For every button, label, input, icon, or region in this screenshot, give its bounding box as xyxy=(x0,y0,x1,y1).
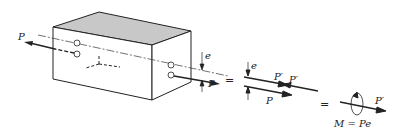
prism xyxy=(53,12,191,100)
eccentricity-dim-1 xyxy=(200,52,204,92)
hole-centroid-left xyxy=(74,40,80,46)
label-eccentricity-1: e xyxy=(205,50,211,61)
label-p-prime-2: P′ xyxy=(288,74,299,85)
label-p-prime-final: P′ xyxy=(374,95,385,106)
label-p-lower: P xyxy=(265,95,273,106)
eccentric-load-diagram: P e P = e P′ P′ P = P′ M = Pe xyxy=(0,0,399,135)
label-p-prime-1: P′ xyxy=(273,71,284,82)
label-load-left: P xyxy=(17,31,25,42)
label-load-right: P xyxy=(207,78,215,89)
equals-sign-2: = xyxy=(320,98,329,111)
hole-load-left xyxy=(74,51,80,57)
equals-sign-1: = xyxy=(225,74,234,87)
hole-centroid-right xyxy=(168,62,174,68)
hole-load-right xyxy=(168,72,174,78)
label-moment: M = Pe xyxy=(333,118,371,129)
label-eccentricity-2: e xyxy=(251,60,257,71)
